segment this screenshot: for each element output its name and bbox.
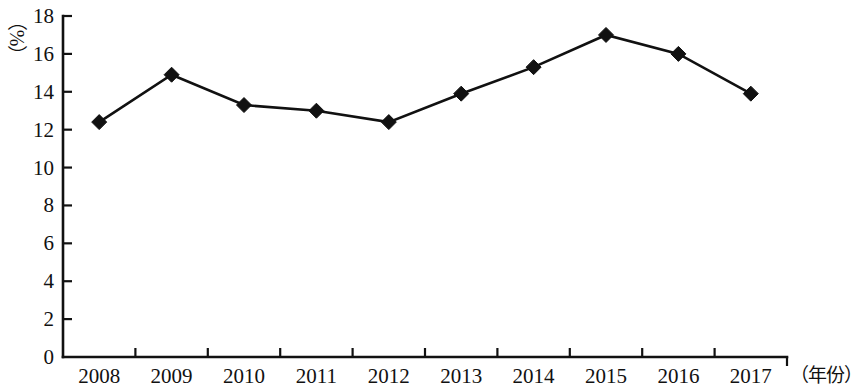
data-point-marker [526, 60, 541, 75]
x-tick-label: 2009 [151, 364, 193, 388]
x-tick-label: 2013 [440, 364, 482, 388]
data-point-marker [309, 103, 324, 118]
data-point-marker [454, 86, 469, 101]
x-tick-label: 2010 [223, 364, 265, 388]
chart-canvas: 024681012141618 200820092010201120122013… [0, 0, 852, 389]
y-tick-marks [63, 16, 72, 319]
data-point-marker [599, 27, 614, 42]
y-tick-label: 6 [44, 231, 55, 255]
data-point-marker [92, 115, 107, 130]
y-tick-label: 16 [33, 42, 54, 66]
data-point-marker [671, 46, 686, 61]
x-tick-label: 2014 [513, 364, 556, 388]
x-axis-label-text: （年份） [790, 365, 852, 386]
x-tick-label: 2008 [78, 364, 120, 388]
data-point-marker [743, 86, 758, 101]
series-markers [92, 27, 759, 129]
y-tick-label: 10 [33, 156, 54, 180]
y-tick-label: 18 [33, 4, 54, 28]
x-axis-label: （年份） [790, 360, 852, 387]
y-tick-label: 2 [44, 307, 55, 331]
y-tick-labels: 024681012141618 [33, 4, 55, 369]
data-point-marker [381, 115, 396, 130]
y-tick-label: 4 [44, 269, 55, 293]
y-tick-label: 14 [33, 80, 55, 104]
x-tick-label: 2011 [296, 364, 337, 388]
y-tick-label: 8 [44, 193, 55, 217]
x-tick-label: 2017 [730, 364, 772, 388]
data-point-marker [237, 98, 252, 113]
data-series [92, 27, 759, 129]
x-tick-label: 2016 [657, 364, 699, 388]
data-point-marker [164, 67, 179, 82]
y-tick-label: 0 [44, 345, 55, 369]
x-tick-label: 2015 [585, 364, 627, 388]
x-tick-label: 2012 [368, 364, 410, 388]
line-chart: 024681012141618 200820092010201120122013… [0, 0, 852, 389]
series-line [99, 35, 751, 122]
x-tick-labels: 2008200920102011201220132014201520162017 [78, 364, 772, 388]
y-tick-label: 12 [33, 118, 54, 142]
